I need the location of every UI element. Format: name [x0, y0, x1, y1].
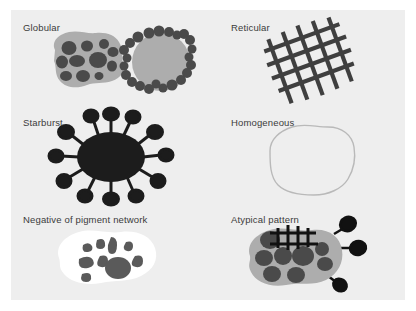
panel-label-starburst: Starburst [23, 117, 63, 128]
starburst-core [77, 132, 145, 182]
panel-reticular: Reticular [208, 10, 405, 107]
panel-homogeneous: Homogeneous [208, 107, 405, 204]
panel-label-reticular: Reticular [231, 22, 270, 33]
panel-label-atypical-pattern: Atypical pattern [231, 214, 299, 225]
homogeneous-outline [270, 125, 355, 195]
panel-starburst: Starburst [11, 107, 208, 204]
panel-atypical-pattern: Atypical pattern [208, 204, 405, 300]
panel-label-negative-pigment-network: Negative of pigment network [23, 214, 147, 225]
panel-label-homogeneous: Homogeneous [231, 117, 294, 128]
panel-label-globular: Globular [23, 22, 60, 33]
reticular-grid [258, 11, 362, 109]
panel-globular: Globular [11, 10, 208, 107]
dermoscopy-pattern-figure: Globular [11, 10, 405, 300]
panel-negative-pigment-network: Negative of pigment network [11, 204, 208, 300]
